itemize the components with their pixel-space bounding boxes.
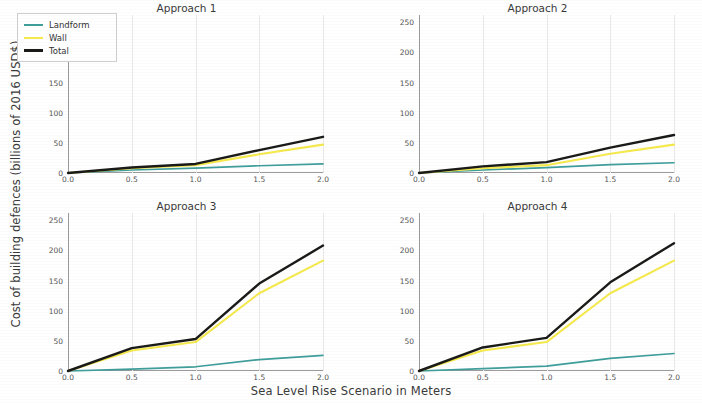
legend-item-total[interactable]: Total	[21, 44, 112, 57]
x-axis-tick-label: 1.5	[253, 175, 265, 184]
legend-item-landform[interactable]: Landform	[21, 18, 112, 31]
y-axis-tick-label: 100	[49, 306, 63, 315]
legend-item-label: Landform	[49, 20, 90, 30]
y-axis-tick-label: 250	[400, 18, 414, 27]
y-axis-tick-label: 200	[49, 246, 63, 255]
gridline-vertical	[323, 213, 324, 371]
x-axis-tick-label: 1.5	[253, 373, 265, 382]
y-axis-tick-label: 150	[400, 276, 414, 285]
legend-item-label: Wall	[49, 33, 67, 43]
x-axis-tick-label: 2.0	[668, 175, 680, 184]
x-axis-tick-label: 1.5	[604, 373, 616, 382]
series-line-wall	[419, 261, 674, 371]
y-axis-tick-label: 200	[400, 246, 414, 255]
x-axis-tick-label: 0.0	[413, 373, 425, 382]
y-axis-tick-label: 150	[400, 78, 414, 87]
y-axis-tick-label: 100	[49, 108, 63, 117]
x-axis-tick-label: 0.0	[62, 175, 74, 184]
y-axis-tick-label: 250	[49, 216, 63, 225]
gridline-vertical	[674, 213, 675, 371]
y-axis-tick-label: 100	[400, 108, 414, 117]
y-axis-tick-label: 50	[53, 138, 63, 147]
panel-approach-3: Approach 3 0.00.51.01.52.005010015020025…	[22, 200, 351, 396]
x-axis-tick-label: 0.5	[126, 175, 138, 184]
series-lines	[68, 213, 323, 371]
y-axis-tick-label: 50	[404, 336, 414, 345]
series-line-wall	[68, 261, 323, 371]
gridline-vertical	[674, 15, 675, 173]
x-axis-tick-label: 1.0	[541, 175, 553, 184]
x-axis-tick-label: 0.5	[477, 373, 489, 382]
y-axis-tick-label: 0	[58, 367, 63, 376]
panel-approach-4: Approach 4 0.00.51.01.52.005010015020025…	[373, 200, 702, 396]
plot-area: 0.00.51.01.52.0050100150200250	[419, 213, 674, 371]
panel-approach-2: Approach 2 0.00.51.01.52.005010015020025…	[373, 2, 702, 198]
y-axis-tick-label: 250	[400, 216, 414, 225]
x-axis-tick-label: 2.0	[668, 373, 680, 382]
y-axis-tick-label: 50	[404, 138, 414, 147]
x-axis-tick-label: 1.0	[190, 373, 202, 382]
x-axis-tick-label: 0.5	[126, 373, 138, 382]
legend-swatch-icon	[24, 24, 43, 26]
x-axis-tick-label: 0.0	[413, 175, 425, 184]
plot-area: 0.00.51.01.52.0050100150200250	[419, 15, 674, 173]
y-axis-tick-label: 150	[49, 276, 63, 285]
y-axis-tick-label: 0	[409, 169, 414, 178]
series-line-total	[419, 243, 674, 371]
gridline-vertical	[323, 15, 324, 173]
y-axis-tick-label: 150	[49, 78, 63, 87]
y-axis-tick-label: 0	[58, 169, 63, 178]
y-axis-tick-label: 100	[400, 306, 414, 315]
panel-title: Approach 3	[22, 200, 351, 212]
legend: LandformWallTotal	[17, 13, 117, 62]
x-axis-tick-label: 0.5	[477, 175, 489, 184]
x-axis-tick-label: 1.0	[190, 175, 202, 184]
x-axis-tick-label: 2.0	[317, 373, 329, 382]
figure-multipanel-line-charts: Cost of building defences (billions of 2…	[0, 0, 702, 403]
legend-swatch-icon	[24, 37, 43, 39]
legend-item-wall[interactable]: Wall	[21, 31, 112, 44]
series-line-total	[68, 246, 323, 371]
plot-area: 0.00.51.01.52.0050100150200250	[68, 213, 323, 371]
y-axis-tick-label: 0	[409, 367, 414, 376]
panel-title: Approach 2	[373, 2, 702, 14]
x-axis-tick-label: 2.0	[317, 175, 329, 184]
y-axis-tick-label: 200	[400, 48, 414, 57]
legend-swatch-icon	[24, 49, 43, 52]
x-axis-tick-label: 1.0	[541, 373, 553, 382]
legend-item-label: Total	[49, 46, 69, 56]
panel-title: Approach 4	[373, 200, 702, 212]
series-lines	[419, 213, 674, 371]
series-lines	[419, 15, 674, 173]
x-axis-tick-label: 0.0	[62, 373, 74, 382]
x-axis-tick-label: 1.5	[604, 175, 616, 184]
y-axis-tick-label: 50	[53, 336, 63, 345]
